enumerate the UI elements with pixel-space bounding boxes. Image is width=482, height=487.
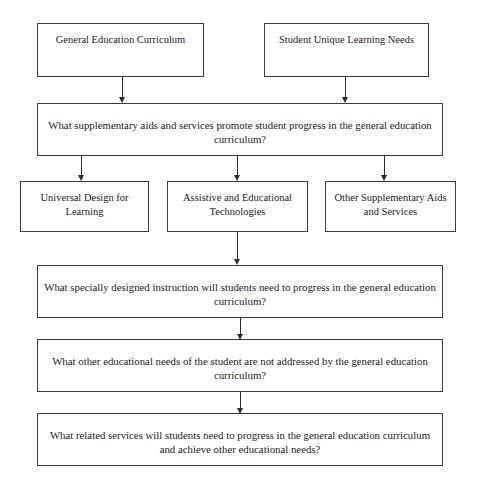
node-label: General Education Curriculum xyxy=(38,33,203,47)
connector-needs-to-supplementary xyxy=(345,77,346,103)
connector-stem xyxy=(240,392,241,408)
flowchart-diagram: General Education Curriculum Student Uni… xyxy=(0,0,482,487)
node-question-other-educational-needs: What other educational needs of the stud… xyxy=(37,339,443,392)
node-question-related-services: What related services will students need… xyxy=(37,413,443,466)
node-label: Universal Design for Learning xyxy=(21,191,148,219)
node-assistive-and-educational-technologies: Assistive and Educational Technologies xyxy=(167,181,308,232)
connector-supplementary-to-technologies xyxy=(237,156,238,182)
node-label: Assistive and Educational Technologies xyxy=(168,191,307,219)
connector-supplementary-to-udl xyxy=(81,156,82,182)
node-label: Other Supplementary Aids and Services xyxy=(326,191,455,219)
connector-supplementary-to-other-aids xyxy=(384,156,385,182)
connector-other-needs-to-related-services xyxy=(240,392,241,414)
node-label: What related services will students need… xyxy=(38,428,442,457)
node-question-supplementary-aids: What supplementary aids and services pro… xyxy=(37,103,443,156)
node-question-specially-designed-instruction: What specially designed instruction will… xyxy=(37,265,443,318)
connector-stem xyxy=(122,77,123,97)
connector-curriculum-to-supplementary xyxy=(122,77,123,103)
node-label: Student Unique Learning Needs xyxy=(265,33,428,47)
connector-stem xyxy=(345,77,346,97)
node-general-education-curriculum: General Education Curriculum xyxy=(37,23,204,77)
connector-stem xyxy=(81,156,82,175)
node-label: What specially designed instruction will… xyxy=(38,280,442,309)
connector-stem xyxy=(240,318,241,334)
connector-instruction-to-other-needs xyxy=(240,318,241,340)
connector-technologies-to-instruction xyxy=(237,232,238,266)
connector-stem xyxy=(384,156,385,175)
node-label: What other educational needs of the stud… xyxy=(38,354,442,383)
node-label: What supplementary aids and services pro… xyxy=(38,118,442,147)
node-student-unique-learning-needs: Student Unique Learning Needs xyxy=(264,23,429,77)
node-universal-design-for-learning: Universal Design for Learning xyxy=(20,181,149,232)
connector-stem xyxy=(237,156,238,175)
node-other-supplementary-aids-and-services: Other Supplementary Aids and Services xyxy=(325,181,456,232)
connector-stem xyxy=(237,232,238,259)
